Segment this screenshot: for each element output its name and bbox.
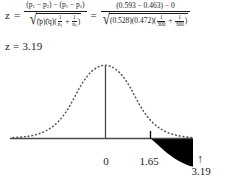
- radical-numeric: √ (0.528)(0.472)(1300 + 1300): [103, 13, 188, 28]
- value-n2: 300: [175, 22, 183, 28]
- value-n1: 300: [157, 22, 165, 28]
- p-bar: ̄p: [39, 18, 43, 26]
- worked-solution-page: z = (̂p1 − ̂p2) − (p1 − p2) √ (̄p)(̄q)(1…: [0, 0, 241, 188]
- test-statistic-annotation: 3.19: [184, 165, 218, 177]
- x-tick-label-critical: 1.65: [132, 155, 166, 167]
- value-p-bar: 0.528: [112, 17, 129, 25]
- numeric-numerator: (0.593 − 0.463) − 0: [114, 2, 176, 11]
- symbolic-denominator: √ (̄p)(̄q)(1n1 + 1n2): [28, 12, 84, 29]
- numeric-fraction: (0.593 − 0.463) − 0 √ (0.528)(0.472)(130…: [101, 2, 190, 28]
- axis-label-group: 0 1.65 ↑ 3.19: [0, 60, 241, 188]
- formula-second-equals-sign: =: [91, 9, 97, 21]
- symbolic-fraction: (̂p1 − ̂p2) − (p1 − p2) √ (̄p)(̄q)(1n1 +…: [24, 1, 86, 29]
- one-over-n2: 1n2: [72, 15, 76, 29]
- formula-equals-sign: =: [14, 9, 20, 21]
- formula-variable-z: z: [5, 9, 10, 21]
- radical-sign: √: [103, 11, 110, 30]
- z-result-line: z = 3.19: [5, 40, 42, 52]
- radicand-symbolic: (̄p)(̄q)(1n1 + 1n2): [36, 13, 81, 29]
- numeric-denominator: √ (0.528)(0.472)(1300 + 1300): [101, 12, 190, 28]
- one-over-n2-numeric: 1300: [175, 15, 183, 28]
- one-over-n1-numeric: 1300: [157, 15, 165, 28]
- one-over-n1: 1n1: [58, 15, 62, 29]
- radical-sign: √: [30, 11, 37, 31]
- value-null-difference: 0: [171, 1, 175, 10]
- p2-hat: ̂p2: [43, 1, 49, 10]
- value-p2-hat: 0.463: [144, 1, 161, 10]
- normal-curve-figure: 0 1.65 ↑ 3.19: [0, 60, 241, 188]
- z-test-formula: z = (̂p1 − ̂p2) − (p1 − p2) √ (̄p)(̄q)(1…: [5, 1, 190, 29]
- value-p1-hat: 0.593: [119, 1, 136, 10]
- x-tick-label-zero: 0: [96, 155, 116, 167]
- radicand-numeric: (0.528)(0.472)(1300 + 1300): [109, 13, 188, 28]
- q-bar: ̄q: [48, 18, 52, 26]
- value-q-bar: 0.472: [134, 17, 151, 25]
- radical-symbolic: √ (̄p)(̄q)(1n1 + 1n2): [30, 13, 82, 29]
